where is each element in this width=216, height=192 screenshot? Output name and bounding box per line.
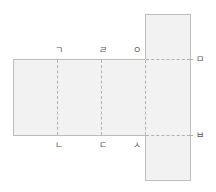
label-bottom-1: ㄴ [53, 140, 65, 150]
label-top-3: ㅇ [131, 45, 143, 55]
fold-line-1 [57, 60, 58, 135]
strip-left-upper-edge [145, 14, 146, 59]
strip-face [145, 14, 190, 180]
band-face [13, 59, 145, 135]
strip-left-lower-edge [145, 135, 146, 181]
strip-top-edge [145, 14, 191, 15]
label-bottom-2: ㄷ [97, 140, 109, 150]
fold-line-top [146, 59, 190, 60]
band-bottom-edge [13, 135, 145, 136]
fold-line-3 [145, 60, 146, 135]
fold-line-bottom [146, 135, 190, 136]
fold-line-top-ext [190, 59, 193, 60]
label-top-2: ㄹ [97, 45, 109, 55]
label-bottom-3: ㅅ [131, 140, 143, 150]
band-left-edge [13, 59, 14, 136]
label-top-1: ㄱ [53, 45, 65, 55]
fold-line-bottom-ext [190, 135, 193, 136]
label-right-2: ㅂ [194, 130, 206, 140]
fold-line-2 [101, 60, 102, 135]
strip-bottom-edge [145, 180, 191, 181]
strip-right-edge [190, 14, 191, 181]
band-top-edge [13, 59, 145, 60]
label-right-1: ㅁ [194, 54, 206, 64]
